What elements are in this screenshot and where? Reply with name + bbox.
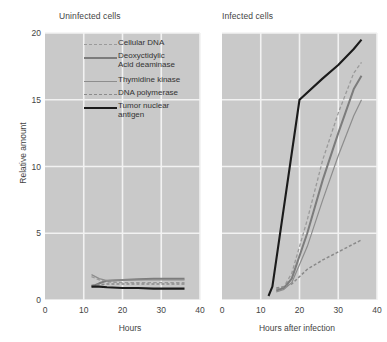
legend-item: Cellular DNA (84, 39, 164, 48)
legend-label: DNA polymerase (117, 89, 178, 98)
legend-line-swatch (84, 102, 117, 111)
legend-label-line2: antigen (118, 111, 169, 120)
legend-label: DeoxyctidylicAcid deaminase (117, 52, 175, 69)
legend-line-swatch (84, 39, 117, 48)
legend-label: Cellular DNA (117, 39, 164, 48)
legend-label: Tumor nuclearantigen (117, 102, 169, 119)
figure-root: Uninfected cells Infected cells Relative… (0, 0, 387, 342)
legend-label-line2: Acid deaminase (118, 61, 175, 70)
plot-canvas (0, 0, 387, 342)
legend-label: Thymidine kinase (117, 76, 180, 85)
legend-line-swatch (84, 52, 117, 61)
legend-item: Tumor nuclearantigen (84, 102, 169, 119)
legend-line-swatch (84, 76, 117, 85)
legend-item: Thymidine kinase (84, 76, 180, 85)
legend-item: DeoxyctidylicAcid deaminase (84, 52, 175, 69)
legend-item: DNA polymerase (84, 89, 178, 98)
legend-line-swatch (84, 89, 117, 98)
